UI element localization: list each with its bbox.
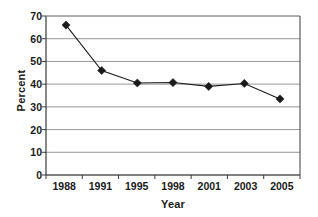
x-tick-label-text: 1988 — [44, 180, 84, 192]
line-chart: Percent 010203040506070 1988199119951998… — [0, 0, 318, 217]
x-tick-label-text: 2003 — [226, 180, 266, 192]
x-axis-tick-marks — [46, 175, 300, 179]
x-tick-label-1995: 1995 — [117, 180, 157, 192]
x-tick-label-1991: 1991 — [80, 180, 120, 192]
data-point-marker — [205, 82, 213, 90]
x-tick-label-2001: 2001 — [189, 180, 229, 192]
x-tick-label-2005: 2005 — [262, 180, 302, 192]
data-point-marker — [133, 79, 141, 87]
series-line — [66, 25, 280, 99]
data-point-marker — [276, 95, 284, 103]
x-tick-label-text: 1998 — [153, 180, 193, 192]
x-tick-label-text: 1995 — [117, 180, 157, 192]
x-tick-label-2003: 2003 — [226, 180, 266, 192]
data-point-marker — [240, 79, 248, 87]
x-tick-label-text: 1991 — [80, 180, 120, 192]
data-point-marker — [169, 78, 177, 86]
x-tick-label-1988: 1988 — [44, 180, 84, 192]
gridlines — [46, 16, 300, 175]
x-tick-label-text: 2005 — [262, 180, 302, 192]
x-tick-label-1998: 1998 — [153, 180, 193, 192]
axis-frame — [46, 16, 300, 175]
x-axis-title: Year — [46, 198, 300, 210]
x-tick-label-text: 2001 — [189, 180, 229, 192]
